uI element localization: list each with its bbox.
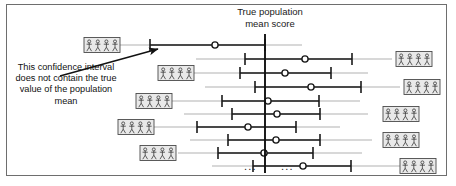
- confidence-interval-row: [148, 121, 340, 133]
- sample-group-icon: [383, 133, 419, 148]
- title-line-2: mean score: [205, 18, 335, 30]
- sample-mean-marker: [245, 124, 251, 130]
- sample-group-icon: [118, 120, 154, 135]
- annotation-label: This confidence interval does not contai…: [10, 62, 122, 107]
- sample-mean-marker: [273, 137, 279, 143]
- sample-mean-marker: [302, 56, 308, 62]
- ellipsis-right: ...: [281, 160, 294, 172]
- ellipsis-left: ...: [244, 160, 257, 172]
- page-title: True population mean score: [205, 6, 335, 29]
- sample-group-icon: [140, 146, 176, 161]
- sample-mean-marker: [261, 150, 267, 156]
- confidence-interval-row: [205, 81, 400, 93]
- sample-group-icon: [84, 38, 120, 53]
- sample-mean-marker: [300, 163, 306, 169]
- confidence-interval-figure: True population mean score This confiden…: [0, 0, 456, 186]
- confidence-interval-row: [184, 108, 368, 120]
- confidence-interval-row: [186, 67, 368, 79]
- confidence-interval-row: [172, 95, 360, 107]
- sample-group-icon: [136, 94, 172, 109]
- sample-group-icon: [396, 52, 432, 67]
- sample-group-icon: [383, 107, 419, 122]
- sample-mean-marker: [274, 111, 280, 117]
- sample-mean-marker: [282, 70, 288, 76]
- sample-mean-marker: [212, 42, 218, 48]
- sample-group-icon: [158, 66, 194, 81]
- confidence-interval-row: [190, 134, 372, 146]
- sample-group-icon: [404, 80, 440, 95]
- confidence-interval-row: [178, 147, 362, 159]
- sample-mean-marker: [308, 84, 314, 90]
- confidence-interval-row: [212, 160, 400, 172]
- confidence-interval-row: [196, 53, 392, 65]
- title-line-1: True population: [205, 6, 335, 18]
- confidence-interval-row: [114, 39, 302, 51]
- sample-group-icon: [400, 159, 436, 174]
